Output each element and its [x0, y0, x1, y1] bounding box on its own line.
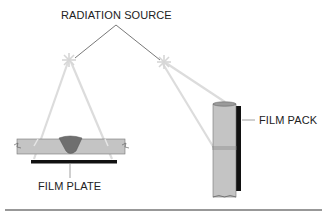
film-plate: [31, 160, 117, 164]
right-radiation-source-icon: [157, 55, 171, 69]
left-radiation-source-icon: [62, 53, 76, 67]
source-leader-lines: [75, 25, 160, 60]
radiation-source-label: RADIATION SOURCE: [61, 9, 172, 21]
welded-plate: [14, 136, 129, 154]
welded-pipe: [212, 102, 241, 197]
film-pack: [236, 106, 241, 191]
radiography-diagram: RADIATION SOURCE FILM PLATE FILM PACK: [0, 0, 333, 216]
film-plate-label: FILM PLATE: [38, 180, 101, 192]
film-pack-label: FILM PACK: [259, 114, 317, 126]
